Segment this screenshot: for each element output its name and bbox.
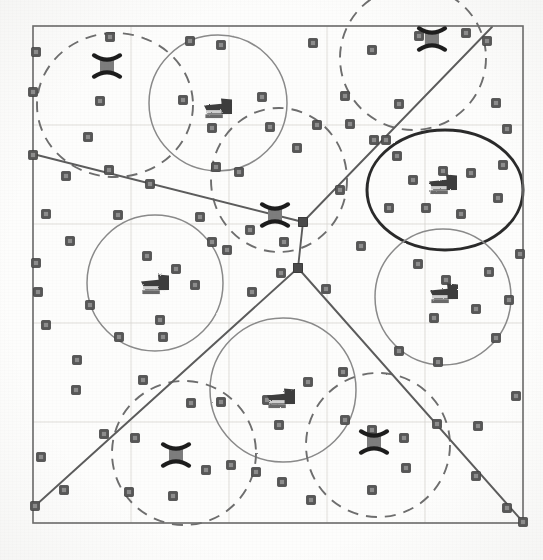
sensor-node bbox=[86, 301, 95, 310]
x-stroke-bottom bbox=[419, 45, 445, 49]
node-highlight-97 bbox=[280, 480, 284, 484]
sensor-node bbox=[131, 434, 140, 443]
node-highlight-105 bbox=[229, 463, 233, 467]
sensor-node bbox=[385, 204, 394, 213]
sensor-node bbox=[62, 172, 71, 181]
node-highlight-17 bbox=[494, 101, 498, 105]
sensor-node bbox=[32, 259, 41, 268]
sensor-node bbox=[146, 180, 155, 189]
node-highlight-27 bbox=[148, 182, 152, 186]
sensor-node bbox=[467, 169, 476, 178]
node-highlight-41 bbox=[248, 228, 252, 232]
head-se bbox=[361, 431, 387, 452]
node-highlight-69 bbox=[44, 323, 48, 327]
centroid-e bbox=[430, 284, 458, 304]
sensor-node bbox=[277, 269, 286, 278]
cluster-sw-dashed bbox=[112, 381, 256, 525]
node-highlight-53 bbox=[279, 271, 283, 275]
node-highlight-73 bbox=[189, 401, 193, 405]
node-highlight-14 bbox=[343, 94, 347, 98]
node-highlight-32 bbox=[411, 178, 415, 182]
node-highlight-33 bbox=[441, 169, 445, 173]
sensor-node bbox=[492, 99, 501, 108]
blob-base bbox=[268, 404, 285, 408]
node-highlight-37 bbox=[68, 239, 72, 243]
diagram-canvas bbox=[0, 0, 543, 560]
node-highlight-52 bbox=[225, 248, 229, 252]
node-highlight-68 bbox=[507, 298, 511, 302]
sensor-node bbox=[196, 213, 205, 222]
node-highlight-103 bbox=[521, 520, 525, 524]
node-highlight-44 bbox=[338, 188, 342, 192]
node-highlight-31 bbox=[395, 154, 399, 158]
node-highlight-55 bbox=[359, 244, 363, 248]
sensor-node bbox=[191, 281, 200, 290]
sensor-node bbox=[115, 333, 124, 342]
node-highlight-104 bbox=[33, 504, 37, 508]
cluster-n-solid bbox=[149, 35, 287, 171]
edge-center-vertical bbox=[298, 222, 303, 268]
sensor-node bbox=[457, 210, 466, 219]
node-highlight-34 bbox=[469, 171, 473, 175]
node-highlight-1 bbox=[108, 35, 112, 39]
node-highlight-92 bbox=[62, 488, 66, 492]
sensor-node bbox=[275, 421, 284, 430]
node-highlight-78 bbox=[397, 349, 401, 353]
sensor-node bbox=[368, 486, 377, 495]
node-highlight-38 bbox=[116, 213, 120, 217]
node-highlight-90 bbox=[514, 394, 518, 398]
node-highlight-22 bbox=[372, 138, 376, 142]
cluster-ne-dashed bbox=[340, 0, 486, 130]
sensor-node bbox=[208, 238, 217, 247]
node-highlight-10 bbox=[98, 99, 102, 103]
edge-southeast bbox=[298, 268, 523, 522]
node-highlight-13 bbox=[315, 123, 319, 127]
blob-stripe bbox=[143, 286, 159, 289]
node-highlight-49 bbox=[34, 261, 38, 265]
node-highlight-82 bbox=[102, 432, 106, 436]
node-highlight-56 bbox=[416, 262, 420, 266]
node-highlight-83 bbox=[133, 436, 137, 440]
sensor-node bbox=[357, 242, 366, 251]
node-highlight-35 bbox=[501, 163, 505, 167]
sensor-node bbox=[246, 226, 255, 235]
node-highlight-81 bbox=[74, 388, 78, 392]
sensor-node bbox=[503, 125, 512, 134]
sensor-node bbox=[114, 211, 123, 220]
sensor-node bbox=[472, 472, 481, 481]
node-highlight-51 bbox=[174, 267, 178, 271]
junction-upper bbox=[299, 218, 308, 227]
x-stroke-top bbox=[419, 28, 445, 32]
node-highlight-46 bbox=[424, 206, 428, 210]
node-highlight-75 bbox=[265, 398, 269, 402]
node-highlight-66 bbox=[432, 316, 436, 320]
sensor-node bbox=[84, 133, 93, 142]
sensor-node bbox=[336, 186, 345, 195]
node-highlight-59 bbox=[518, 252, 522, 256]
sensor-node bbox=[492, 334, 501, 343]
node-highlight-89 bbox=[476, 424, 480, 428]
node-highlight-72 bbox=[161, 335, 165, 339]
node-highlight-6 bbox=[464, 31, 468, 35]
sensor-node bbox=[395, 100, 404, 109]
sensor-node bbox=[252, 468, 261, 477]
node-highlight-30 bbox=[384, 138, 388, 142]
sensor-node bbox=[266, 123, 275, 132]
sensor-node bbox=[179, 96, 188, 105]
sensor-node bbox=[202, 466, 211, 475]
sensor-node bbox=[143, 252, 152, 261]
sensor-node bbox=[346, 120, 355, 129]
sensor-node bbox=[29, 88, 38, 97]
node-highlight-29 bbox=[237, 170, 241, 174]
sensor-node bbox=[278, 478, 287, 487]
sensor-node bbox=[505, 296, 514, 305]
node-highlight-28 bbox=[214, 165, 218, 169]
sensor-node bbox=[223, 246, 232, 255]
sensor-node bbox=[60, 486, 69, 495]
x-stroke-bottom bbox=[94, 72, 120, 76]
sensor-node bbox=[29, 151, 38, 160]
head-sw bbox=[163, 444, 189, 465]
node-highlight-12 bbox=[260, 95, 264, 99]
node-highlight-88 bbox=[435, 422, 439, 426]
node-highlight-50 bbox=[145, 254, 149, 258]
